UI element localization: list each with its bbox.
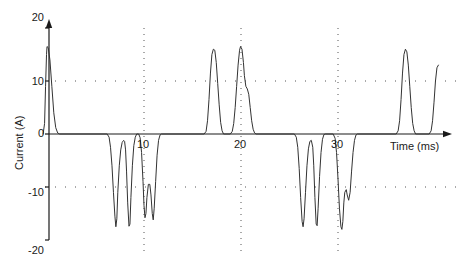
y-axis-title: Current (A) — [14, 116, 25, 170]
y-tick-label-20: 20 — [22, 12, 44, 23]
current-waveform-chart: 20 10 0 -10 -20 10 20 30 Time (ms) Curre… — [0, 0, 458, 267]
axes — [45, 19, 452, 240]
x-axis-arrow — [443, 131, 452, 137]
plot-area — [0, 0, 458, 267]
x-tick-label-30: 30 — [331, 139, 343, 150]
x-axis-title: Time (ms) — [390, 141, 439, 152]
y-tick-label-10: 10 — [22, 76, 44, 87]
y-tick-label-0: 0 — [22, 128, 44, 139]
y-tick-label-neg10: -10 — [16, 187, 44, 198]
y-axis-arrow — [46, 19, 52, 28]
x-tick-label-10: 10 — [137, 139, 149, 150]
y-tick-label-neg20: -20 — [16, 245, 44, 256]
x-tick-label-20: 20 — [234, 139, 246, 150]
